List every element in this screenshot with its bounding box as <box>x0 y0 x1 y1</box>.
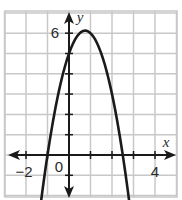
x-tick-label: 4 <box>151 163 159 180</box>
y-axis-label: y <box>75 9 84 25</box>
x-axis-label: x <box>162 134 170 150</box>
origin-label: 0 <box>55 158 63 175</box>
y-tick-label: 6 <box>51 24 59 41</box>
graph: −2046xy <box>0 0 182 200</box>
x-tick-label: −2 <box>15 163 32 180</box>
